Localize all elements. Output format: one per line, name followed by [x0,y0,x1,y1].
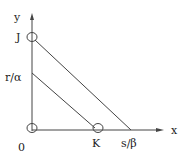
x-axis-label: x [171,124,178,137]
y-tick-r-alpha: r/α [5,71,22,84]
line-r-alpha-to-k [32,73,95,128]
line-j-to-s-beta [35,40,131,130]
y-axis-arrow-icon [30,13,34,20]
x-axis-arrow-icon [156,128,164,132]
x-tick-s-beta: s/β [121,137,137,150]
y-axis-label: y [13,11,21,24]
y-tick-j: J [15,31,20,44]
x-tick-k: K [92,137,101,150]
phase-diagram: y J r/α 0 K s/β x [0,0,185,161]
origin-label: 0 [18,141,25,154]
